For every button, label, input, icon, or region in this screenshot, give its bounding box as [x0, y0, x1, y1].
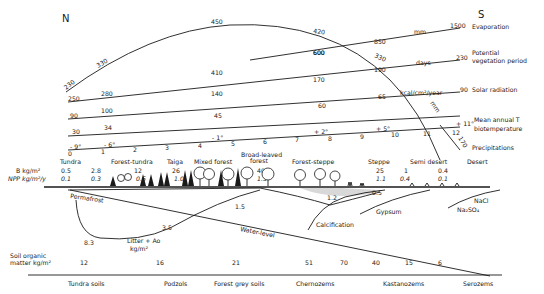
svg-text:7: 7 — [295, 136, 299, 143]
svg-text:10: 10 — [391, 131, 399, 138]
zone-names: Tundra Forest-tundra Taiga Mixed forest … — [59, 151, 488, 166]
water-level-line — [70, 190, 490, 276]
svg-text:26: 26 — [172, 167, 180, 174]
svg-text:21: 21 — [232, 259, 240, 266]
na2so4-label: Na₂SO₄ — [457, 206, 480, 213]
soil-types: Tundra soils Podzols Forest grey soils C… — [67, 280, 493, 288]
evaporation-line — [250, 28, 460, 60]
precip-end-value: 170 — [457, 135, 469, 149]
gypsum-label: Gypsum — [376, 208, 402, 216]
precip-label: Precipitations — [472, 144, 514, 152]
biotemp-value: - 1° — [212, 134, 223, 141]
nacl-label: NaCl — [474, 197, 489, 204]
svg-text:forest: forest — [250, 157, 268, 164]
ecological-zonation-diagram: N S 230 330 450 420 330 600 850 mm 1500 … — [0, 0, 544, 294]
svg-text:Mixed forest: Mixed forest — [194, 158, 233, 165]
evap-value: 330 — [95, 57, 109, 69]
biotemp-label: biotemperature — [474, 125, 523, 133]
solar-end-value: 90 — [460, 86, 468, 93]
svg-text:6: 6 — [438, 259, 442, 266]
biomass-values: 0.5 2.8 12 26 40 25 1 0.4 — [61, 167, 448, 174]
svg-text:Desert: Desert — [467, 158, 488, 165]
veg-mid-value: 170 — [313, 76, 325, 83]
svg-text:70: 70 — [340, 259, 348, 266]
litter-unit: kg/m² — [130, 245, 149, 253]
soil-om-values: 12 16 21 51 70 40 15 6 — [80, 259, 442, 266]
rad-lower-value: 34 — [104, 124, 112, 131]
veg-value: 410 — [211, 69, 223, 76]
rad-lower-value: 45 — [214, 112, 222, 119]
veg-mid-value2: 190 — [374, 66, 386, 73]
precip-unit: mm — [429, 100, 442, 114]
svg-text:Forest-steppe: Forest-steppe — [292, 158, 335, 166]
litter-value: 1.5 — [235, 203, 245, 210]
svg-text:0.1: 0.1 — [438, 175, 448, 182]
litter-value: 8.3 — [84, 239, 94, 246]
svg-text:0: 0 — [68, 150, 72, 157]
evap-value: 230 — [62, 78, 76, 91]
svg-text:0.4: 0.4 — [400, 175, 410, 182]
litter-label: Litter + Ao — [127, 237, 161, 244]
solar-mid-value: 65 — [378, 93, 386, 100]
svg-text:4: 4 — [198, 142, 202, 149]
svg-text:Kastanozems: Kastanozems — [383, 280, 424, 287]
north-label: N — [62, 13, 69, 24]
solar-unit: kcal/cm²/year — [400, 89, 443, 97]
svg-text:8: 8 — [328, 135, 332, 142]
biotemp-value: + 2° — [314, 128, 328, 135]
evap-unit: mm — [414, 28, 426, 35]
svg-text:Forest-tundra: Forest-tundra — [111, 158, 153, 165]
svg-text:51: 51 — [305, 259, 313, 266]
evap-label: Evaporation — [472, 23, 509, 31]
svg-text:Tundra: Tundra — [59, 158, 81, 165]
biotemp-label: Mean annual T — [474, 116, 520, 123]
svg-text:2.8: 2.8 — [91, 167, 101, 174]
veg-label: Potential — [472, 49, 499, 56]
svg-text:Forest grey soils: Forest grey soils — [214, 280, 264, 288]
evap-value: 450 — [211, 18, 223, 25]
svg-text:Serozems: Serozems — [463, 280, 493, 287]
veg-value: 250 — [68, 95, 80, 102]
evap-end-value: 1500 — [450, 22, 466, 29]
svg-text:25: 25 — [376, 167, 384, 174]
svg-text:12: 12 — [134, 167, 142, 174]
npp-label: NPP kg/m²/y — [8, 175, 46, 183]
rad-lower-value: 60 — [318, 102, 326, 109]
svg-text:0.5: 0.5 — [61, 167, 71, 174]
biotemp-value: + 5° — [376, 125, 390, 132]
evap-upper-value: 850 — [374, 38, 386, 45]
svg-text:3: 3 — [165, 144, 169, 151]
svg-text:11: 11 — [423, 130, 431, 137]
evap-value: 330 — [374, 52, 388, 63]
svg-text:40: 40 — [372, 259, 380, 266]
veg-value: 600 — [313, 49, 325, 56]
litter-value: 3.5 — [162, 224, 172, 231]
calcification-label: Calcification — [316, 221, 354, 228]
svg-text:5: 5 — [231, 140, 235, 147]
veg-end-value: 230 — [456, 54, 468, 61]
svg-text:Steppe: Steppe — [368, 158, 390, 166]
svg-text:Taiga: Taiga — [166, 158, 183, 166]
svg-text:2: 2 — [133, 146, 137, 153]
rad-lower-value: 30 — [72, 128, 80, 135]
svg-text:0.1: 0.1 — [61, 175, 71, 182]
biomass-label: B kg/m² — [16, 167, 41, 175]
svg-text:9: 9 — [360, 133, 364, 140]
radiation-lower-line — [68, 116, 460, 136]
svg-text:1: 1 — [101, 148, 105, 155]
litter-value: 1.2 — [327, 194, 337, 201]
solar-value: 90 — [70, 112, 78, 119]
svg-text:16: 16 — [156, 259, 164, 266]
svg-text:Semi desert: Semi desert — [410, 158, 448, 165]
svg-text:12: 12 — [80, 259, 88, 266]
svg-text:1: 1 — [404, 167, 408, 174]
water-level-label: Water-level — [240, 225, 276, 239]
veg-value: 280 — [101, 90, 113, 97]
solar-label: Solar radiation — [472, 86, 517, 93]
svg-text:6: 6 — [263, 138, 267, 145]
biotemp-value: - 9° — [70, 143, 81, 150]
svg-text:0.3: 0.3 — [91, 175, 101, 182]
soil-om-label: matter kg/m² — [10, 259, 52, 267]
veg-label: vegetation period — [472, 57, 527, 65]
biotemp-value: - 6° — [104, 141, 115, 148]
